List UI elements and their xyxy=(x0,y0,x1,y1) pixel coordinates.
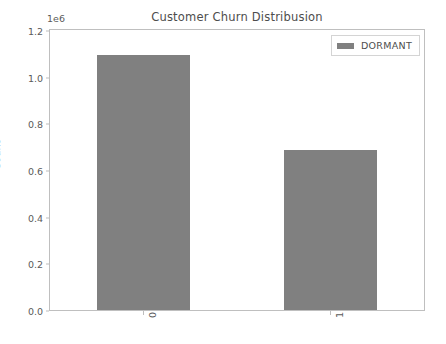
x-tick-mark-1 xyxy=(330,311,331,315)
y-tick-label-1: 0.2 xyxy=(3,259,43,270)
legend-label-dormant: DORMANT xyxy=(361,40,412,51)
chart-title: Customer Churn Distribusion xyxy=(49,10,425,24)
y-tick-label-3: 0.6 xyxy=(3,166,43,177)
y-tick-label-4: 0.8 xyxy=(3,119,43,130)
y-tick-label-5: 1.0 xyxy=(3,72,43,83)
chart-legend: DORMANT xyxy=(331,35,420,56)
bar-category-1 xyxy=(284,150,377,310)
y-axis-label: Count xyxy=(0,140,2,170)
y-axis-offset-text: 1e6 xyxy=(47,13,65,24)
y-tick-label-6: 1.2 xyxy=(3,26,43,37)
chart-figure: Customer Churn Distribusion 1e6 Count 0.… xyxy=(0,0,446,344)
y-tick-label-0: 0.0 xyxy=(3,306,43,317)
x-tick-label-1: 1 xyxy=(334,312,345,318)
plot-area: DORMANT xyxy=(49,29,425,311)
x-tick-mark-0 xyxy=(143,311,144,315)
bar-category-0 xyxy=(97,55,190,310)
y-tick-label-2: 0.4 xyxy=(3,212,43,223)
x-tick-label-0: 0 xyxy=(147,312,158,318)
legend-swatch-dormant xyxy=(337,43,354,49)
